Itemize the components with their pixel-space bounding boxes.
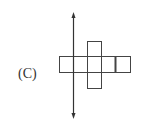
symmetry-axis-arrow-icon — [72, 12, 76, 119]
vertical-rectangle — [88, 42, 102, 89]
horizontal-strip — [60, 57, 131, 73]
cube-net-figure — [0, 0, 141, 127]
